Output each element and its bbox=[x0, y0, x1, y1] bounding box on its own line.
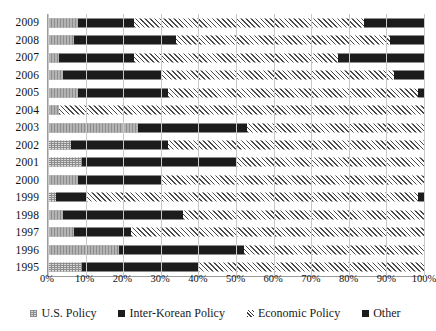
bar-segment-us-2006 bbox=[48, 71, 63, 80]
stacked-bar bbox=[48, 123, 424, 132]
bar-segment-us-2007 bbox=[48, 53, 59, 62]
plot-wrapper: 2009200820072006200520042003200220012000… bbox=[0, 8, 431, 283]
bar-segment-us-2008 bbox=[48, 36, 74, 45]
legend-label: Inter-Korean Policy bbox=[129, 307, 224, 319]
stacked-bar bbox=[48, 263, 424, 272]
legend-swatch-other-icon bbox=[362, 310, 369, 317]
legend-item-inter_korean[interactable]: Inter-Korean Policy bbox=[118, 307, 224, 319]
bar-segment-us-2009 bbox=[48, 18, 78, 27]
y-axis-label-2000: 2000 bbox=[0, 172, 43, 190]
bar-segment-economic-2005 bbox=[168, 88, 418, 97]
bar-segment-us-2000 bbox=[48, 175, 78, 184]
stacked-bar bbox=[48, 228, 424, 237]
bar-segment-economic-2000 bbox=[161, 175, 424, 184]
y-axis-label-1995: 1995 bbox=[0, 259, 43, 277]
bar-row-2004 bbox=[48, 101, 424, 118]
stacked-bar bbox=[48, 158, 424, 167]
bar-segment-inter_korean-1996 bbox=[119, 245, 243, 254]
bar-segment-us-2001 bbox=[48, 158, 82, 167]
stacked-bar bbox=[48, 36, 424, 45]
y-axis-label-2008: 2008 bbox=[0, 32, 43, 50]
bar-row-2005 bbox=[48, 84, 424, 101]
bar-segment-economic-2004 bbox=[59, 106, 424, 115]
bar-segment-us-1997 bbox=[48, 228, 74, 237]
legend-swatch-us-icon bbox=[30, 310, 37, 317]
bar-row-2008 bbox=[48, 31, 424, 48]
bar-segment-us-2004 bbox=[48, 106, 59, 115]
bar-segment-us-1999 bbox=[48, 193, 56, 202]
bar-segment-other-2008 bbox=[390, 36, 424, 45]
bar-segment-us-2005 bbox=[48, 88, 78, 97]
bar-segment-other-2007 bbox=[338, 53, 424, 62]
bar-segment-us-1996 bbox=[48, 245, 119, 254]
bar-rows bbox=[48, 14, 424, 276]
bar-row-2003 bbox=[48, 119, 424, 136]
legend-item-economic[interactable]: Economic Policy bbox=[247, 307, 340, 319]
stacked-bar bbox=[48, 53, 424, 62]
bar-segment-economic-1995 bbox=[198, 263, 424, 272]
stacked-bar bbox=[48, 88, 424, 97]
y-axis-label-1999: 1999 bbox=[0, 189, 43, 207]
y-axis-label-2003: 2003 bbox=[0, 119, 43, 137]
bar-segment-inter_korean-1997 bbox=[74, 228, 130, 237]
bar-segment-inter_korean-1999 bbox=[56, 193, 86, 202]
y-axis-label-2006: 2006 bbox=[0, 67, 43, 85]
y-axis-label-2009: 2009 bbox=[0, 14, 43, 32]
bar-segment-inter_korean-2005 bbox=[78, 88, 168, 97]
legend-label: U.S. Policy bbox=[41, 307, 96, 319]
y-axis-category-labels: 2009200820072006200520042003200220012000… bbox=[0, 14, 43, 277]
bar-segment-inter_korean-2002 bbox=[71, 141, 169, 150]
bar-segment-us-2003 bbox=[48, 123, 138, 132]
gridline-100 bbox=[424, 14, 425, 276]
bar-segment-economic-2008 bbox=[176, 36, 390, 45]
bar-segment-inter_korean-1995 bbox=[82, 263, 199, 272]
chart-legend: U.S. PolicyInter-Korean PolicyEconomic P… bbox=[0, 303, 431, 323]
bar-row-2002 bbox=[48, 136, 424, 153]
bar-segment-economic-2009 bbox=[134, 18, 363, 27]
legend-item-us[interactable]: U.S. Policy bbox=[30, 307, 96, 319]
bar-segment-economic-1999 bbox=[86, 193, 419, 202]
y-axis-label-1998: 1998 bbox=[0, 207, 43, 225]
bar-segment-us-2002 bbox=[48, 141, 71, 150]
legend-item-other[interactable]: Other bbox=[362, 307, 400, 319]
bar-row-1999 bbox=[48, 189, 424, 206]
bar-segment-inter_korean-2006 bbox=[63, 71, 161, 80]
stacked-bar bbox=[48, 71, 424, 80]
legend-label: Other bbox=[373, 307, 400, 319]
stacked-bar bbox=[48, 210, 424, 219]
bar-segment-economic-1998 bbox=[183, 210, 424, 219]
bar-segment-us-1995 bbox=[48, 263, 82, 272]
bar-row-1997 bbox=[48, 224, 424, 241]
bar-segment-inter_korean-2007 bbox=[59, 53, 134, 62]
stacked-bar bbox=[48, 141, 424, 150]
bar-row-2006 bbox=[48, 66, 424, 83]
bar-segment-economic-2001 bbox=[236, 158, 424, 167]
bar-segment-economic-1997 bbox=[131, 228, 424, 237]
y-axis-label-1997: 1997 bbox=[0, 224, 43, 242]
y-axis-label-1996: 1996 bbox=[0, 242, 43, 260]
bar-segment-inter_korean-1998 bbox=[63, 210, 183, 219]
bar-segment-inter_korean-2008 bbox=[74, 36, 176, 45]
bar-segment-other-1999 bbox=[418, 193, 424, 202]
stacked-bar bbox=[48, 175, 424, 184]
stacked-bar bbox=[48, 193, 424, 202]
bar-row-2009 bbox=[48, 14, 424, 31]
plot-area bbox=[47, 14, 424, 277]
bar-row-2000 bbox=[48, 171, 424, 188]
bar-segment-inter_korean-2001 bbox=[82, 158, 236, 167]
bar-row-1998 bbox=[48, 206, 424, 223]
stacked-bar bbox=[48, 106, 424, 115]
legend-swatch-inter_korean-icon bbox=[118, 310, 125, 317]
bar-row-1995 bbox=[48, 259, 424, 276]
bar-row-1996 bbox=[48, 241, 424, 258]
bar-segment-inter_korean-2003 bbox=[138, 123, 247, 132]
bar-segment-economic-2007 bbox=[134, 53, 337, 62]
bar-segment-economic-2006 bbox=[161, 71, 394, 80]
y-axis-label-2004: 2004 bbox=[0, 102, 43, 120]
bar-segment-other-2005 bbox=[418, 88, 424, 97]
bar-segment-us-1998 bbox=[48, 210, 63, 219]
bar-row-2001 bbox=[48, 154, 424, 171]
legend-swatch-economic-icon bbox=[247, 310, 254, 317]
bar-segment-other-2006 bbox=[394, 71, 424, 80]
